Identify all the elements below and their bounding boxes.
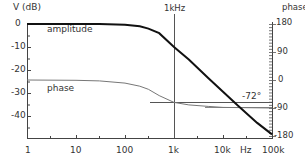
x-tick-100: 100: [116, 146, 133, 155]
y-right-tick-90: 90: [277, 47, 288, 56]
phase-series-label: phase: [47, 84, 74, 93]
y-right-tick-180: 180: [276, 18, 292, 27]
left-axis-title: V (dB): [13, 3, 41, 12]
y-left-tick-minus-40: -40: [11, 111, 26, 120]
1khz-marker-label: 1kHz: [164, 4, 185, 13]
y-left-tick-0: 0: [15, 19, 21, 28]
x-tick-1k: 1k: [168, 146, 179, 155]
amplitude-curve: [27, 24, 272, 134]
right-axis-title: phase: [282, 3, 305, 12]
bode-plot: [0, 0, 305, 162]
x-tick-1: 1: [25, 146, 31, 155]
x-tick-10: 10: [70, 146, 81, 155]
y-left-tick-minus-10: -10: [11, 42, 26, 51]
x-tick-10k: 10k: [214, 146, 231, 155]
y-right-tick-minus-180: -180: [274, 131, 293, 140]
y-left-tick-minus-20: -20: [11, 65, 26, 74]
y-right-tick-0: 0: [278, 75, 283, 84]
y-right-tick-minus-90: -90: [274, 103, 288, 112]
phase-marker-label: -72°: [242, 92, 261, 101]
x-unit-label: Hz: [240, 146, 252, 155]
amplitude-series-label: amplitude: [47, 25, 92, 34]
x-tick-100k: 100k: [262, 146, 284, 155]
y-left-tick-minus-30: -30: [11, 88, 26, 97]
